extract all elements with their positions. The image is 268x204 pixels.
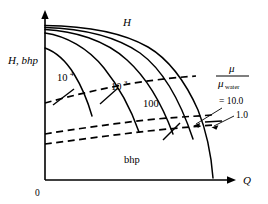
curve-label-mu1e4-mantissa: 10 (57, 72, 68, 83)
origin-label: 0 (35, 188, 40, 198)
y-axis-label-h: H, bhp (7, 54, 38, 66)
curve-label-mu1e4-exponent: 4 (70, 70, 74, 78)
head-family-label: H (122, 16, 132, 28)
chart-canvas: H, bhp 0 Q H bhp 10 4 10 3 100 μ μ water… (0, 0, 268, 204)
tick-water (205, 121, 222, 122)
curve-label-mu1e3-exponent: 3 (124, 79, 128, 87)
legend-denominator-mu: μ (217, 77, 224, 89)
tick-mu100 (163, 123, 180, 140)
bhp-curve-group (45, 76, 213, 144)
x-axis-arrowhead (227, 176, 236, 183)
legend-numerator-mu: μ (228, 62, 235, 74)
legend-value-water: 1.0 (236, 110, 248, 120)
head-curve-mu1e4 (45, 48, 92, 116)
curve-label-mu1e3-mantissa: 10 (111, 81, 122, 92)
legend-denominator-subscript: water (225, 83, 240, 90)
bhp-family-label: bhp (124, 154, 140, 165)
bhp-curve-water (45, 125, 213, 144)
y-axis-arrowhead (41, 10, 48, 19)
legend-value-mu10: = 10.0 (219, 96, 244, 106)
x-axis-label-q: Q (243, 174, 251, 186)
pump-viscosity-performance-figure: H, bhp 0 Q H bhp 10 4 10 3 100 μ μ water… (0, 0, 268, 204)
curve-label-mu100: 100 (143, 98, 159, 109)
bhp-curve-mu100 (45, 115, 212, 134)
